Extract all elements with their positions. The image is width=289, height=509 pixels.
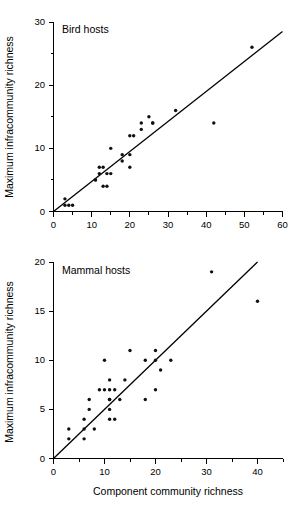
x-ticks-bird: 0 10 20 30 40 50 60 [51,212,288,231]
x-tick-label-bird-10: 10 [86,219,97,230]
data-point [128,153,131,156]
data-point [154,359,157,362]
panel-bird-hosts: Maximum infracommunity richness Bird hos… [3,16,288,230]
y-tick-label-bird-0: 0 [40,206,45,217]
x-tick-label-bird-50: 50 [239,219,250,230]
data-point [101,185,104,188]
data-point [98,172,101,175]
scatter-points-mammal [67,270,259,440]
data-point [210,270,213,273]
data-point [105,172,108,175]
data-point [113,388,116,391]
y-axis-title-bird: Maximum infracommunity richness [3,36,15,198]
data-point [105,185,108,188]
data-point [132,134,135,137]
data-point [256,300,259,303]
data-point [67,427,70,430]
data-point [108,408,111,411]
data-point [144,359,147,362]
data-point [140,121,143,124]
data-point [108,378,111,381]
data-point [94,178,97,181]
data-point [128,166,131,169]
scatter-points-bird [63,46,253,207]
data-point [103,359,106,362]
x-tick-label-mammal-40: 40 [252,466,263,477]
data-point [82,418,85,421]
data-point [63,203,66,206]
x-tick-label-bird-20: 20 [125,219,136,230]
data-point [109,147,112,150]
x-tick-label-mammal-0: 0 [51,466,56,477]
figure-container: Maximum infracommunity richness Bird hos… [0,0,289,509]
data-point [82,427,85,430]
data-point [67,203,70,206]
data-point [93,427,96,430]
panel-title-mammal: Mammal hosts [62,264,130,276]
data-point [88,408,91,411]
data-point [121,153,124,156]
y-tick-label-bird-20: 20 [34,79,45,90]
data-point [123,378,126,381]
x-ticks-mammal: 0 10 20 30 40 [51,459,283,478]
y-tick-label-mammal-5: 5 [40,403,45,414]
figure-svg: Maximum infracommunity richness Bird hos… [0,0,289,509]
data-point [98,166,101,169]
y-tick-label-mammal-10: 10 [34,354,45,365]
data-point [118,398,121,401]
data-point [212,121,215,124]
data-point [103,388,106,391]
y-axis-title-mammal: Maximum infracommunity richness [3,281,15,443]
panel-mammal-hosts: Maximum infracommunity richness Mammal h… [3,256,283,497]
data-point [109,172,112,175]
y-ticks-bird: 30 20 10 0 [34,16,53,217]
y-tick-label-mammal-15: 15 [34,305,45,316]
x-tick-label-bird-0: 0 [51,219,56,230]
x-tick-label-bird-30: 30 [163,219,174,230]
data-point [67,437,70,440]
data-point [121,159,124,162]
data-point [63,197,66,200]
data-point [88,398,91,401]
data-point [140,128,143,131]
y-tick-label-bird-30: 30 [34,16,45,27]
x-tick-label-mammal-10: 10 [99,466,110,477]
y-tick-label-bird-10: 10 [34,142,45,153]
data-point [108,388,111,391]
data-point [101,166,104,169]
data-point [250,46,253,49]
data-point [113,418,116,421]
data-point [128,349,131,352]
y-tick-label-mammal-0: 0 [40,453,45,464]
data-point [128,134,131,137]
y-tick-label-mammal-20: 20 [34,256,45,267]
x-tick-label-bird-40: 40 [201,219,212,230]
data-point [159,368,162,371]
data-point [108,418,111,421]
data-point [174,109,177,112]
data-point [147,115,150,118]
panel-title-bird: Bird hosts [62,23,109,35]
x-axis-title: Component community richness [93,485,243,497]
data-point [108,398,111,401]
data-point [154,349,157,352]
data-point [154,388,157,391]
data-point [151,121,154,124]
x-tick-label-bird-60: 60 [277,219,288,230]
data-point [169,359,172,362]
data-point [71,203,74,206]
y-ticks-mammal: 20 15 10 5 0 [34,256,53,464]
data-point [82,437,85,440]
x-tick-label-mammal-20: 20 [150,466,161,477]
regression-line-bird [54,31,283,211]
data-point [144,398,147,401]
data-point [98,388,101,391]
x-tick-label-mammal-30: 30 [201,466,212,477]
